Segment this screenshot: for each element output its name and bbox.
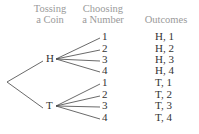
- leaf-line-t-2: [56, 96, 100, 106]
- node-h: H: [46, 53, 54, 64]
- leaf-number: 4: [102, 112, 108, 123]
- outcome-item: T, 1: [155, 77, 172, 88]
- outcome-item: H, 1: [155, 31, 174, 42]
- branch-line-h: [7, 61, 43, 82]
- leaf-line-t-3: [56, 106, 100, 107]
- leaf-line-t-4: [56, 106, 100, 119]
- outcome-item: T, 3: [155, 100, 172, 111]
- leaf-line-h-1: [56, 38, 100, 59]
- leaf-number: 3: [102, 100, 108, 111]
- leaf-line-t-1: [56, 84, 100, 106]
- outcome-item: T, 4: [155, 112, 172, 123]
- leaf-number: 4: [102, 65, 108, 76]
- leaf-number: 1: [102, 31, 108, 42]
- node-t: T: [46, 100, 53, 111]
- leaf-number: 1: [102, 77, 108, 88]
- leaf-line-h-2: [56, 50, 100, 59]
- outcome-item: H, 4: [155, 65, 174, 76]
- branch-line-t: [7, 82, 43, 108]
